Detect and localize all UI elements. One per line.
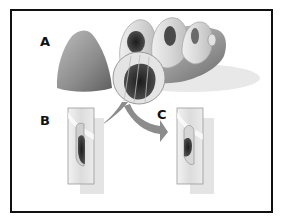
label-a: A xyxy=(40,35,50,48)
tissue-dome-piece xyxy=(57,30,112,91)
end-cap-lumen xyxy=(208,34,216,46)
slice-2-lumen xyxy=(164,26,176,46)
label-c: C xyxy=(157,108,167,121)
label-b: B xyxy=(40,114,50,127)
slice-3-lumen xyxy=(191,28,199,44)
slice-1-lumen xyxy=(127,31,145,53)
